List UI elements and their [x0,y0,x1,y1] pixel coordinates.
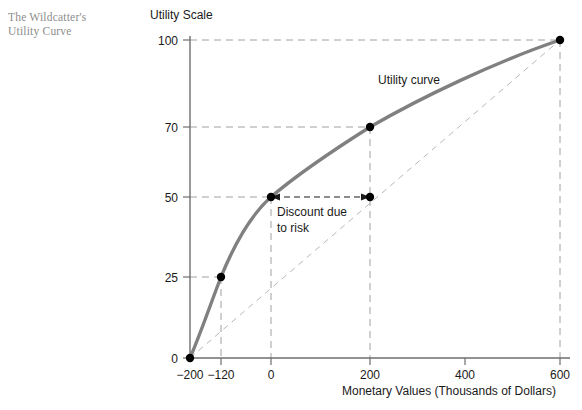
y-tick-label-100: 100 [158,34,178,48]
discount-annotation-line1: Discount due [277,205,347,219]
y-axis-ticks [183,40,190,358]
y-tick-label-70: 70 [165,121,179,135]
marker-200-50 [366,193,374,201]
marker-200-70 [366,123,374,131]
horizontal-guide-lines [190,40,560,277]
marker-neg120-25 [217,273,225,281]
figure-root: The Wildcatter's Utility Curve Utility S… [0,0,582,410]
discount-arrow [271,194,370,201]
utility-curve-annotation: Utility curve [378,73,440,87]
risk-neutral-reference-line [190,40,560,358]
y-tick-label-25: 25 [165,271,179,285]
marker-0-50 [267,193,275,201]
y-tick-label-0: 0 [171,352,178,366]
x-tick-label-neg200: −200 [176,368,203,382]
x-tick-label-0: 0 [268,368,275,382]
x-tick-label-400: 400 [455,368,475,382]
discount-annotation-line2: to risk [277,221,310,235]
x-tick-label-neg120: −120 [207,368,234,382]
marker-600-100 [556,36,564,44]
marker-neg200-0 [186,354,194,362]
x-axis-ticks [221,358,560,365]
utility-curve-chart: 100 70 50 25 0 −200 −120 0 200 400 600 [0,0,582,410]
x-tick-label-600: 600 [550,368,570,382]
x-tick-label-200: 200 [360,368,380,382]
y-tick-label-50: 50 [165,191,179,205]
